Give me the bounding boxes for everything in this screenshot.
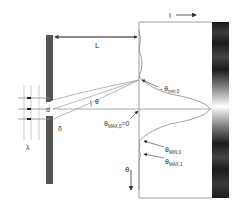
svg-text:- θmin,0: - θmin,0 [160,85,180,94]
incident-wavefronts [24,85,39,140]
angle-label: θ [95,98,99,105]
theta-max1-annotation: θMAX,1 [144,154,183,167]
svg-text:θMAX,1: θMAX,1 [165,158,183,167]
theta-max0-annotation: θMAX,0=0 [104,111,138,129]
screen [139,22,229,198]
theta-min0-annotation: θMIN,0 [144,141,181,155]
wavelength-label: λ [26,144,30,151]
svg-text:θMAX,0=0: θMAX,0=0 [104,120,130,129]
diffraction-pattern [212,22,229,198]
svg-text:θMIN,0: θMIN,0 [165,146,181,155]
slit-width-label: d [46,106,50,113]
angle-arc [90,100,91,107]
intensity-label: I [169,12,171,19]
single-slit-diffraction-diagram: L I θ d δ λ θ - θmin,0 θMAX,0=0 θMIN,0 θ… [0,0,236,207]
distance-label: L [95,41,100,50]
theta-axis-label: θ [125,165,130,174]
path-difference-label: δ [58,125,62,132]
theta-min0-neg-annotation: - θmin,0 [142,80,180,94]
